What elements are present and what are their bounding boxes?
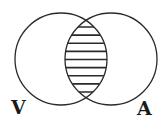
set-v-label: V <box>11 98 26 117</box>
set-a-label: A <box>137 99 152 118</box>
